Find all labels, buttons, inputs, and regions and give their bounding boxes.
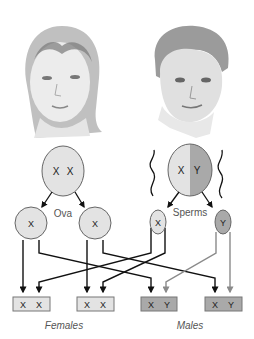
male-parent-chromosome-x: X: [178, 165, 185, 176]
meiosis-arrow: [42, 192, 52, 207]
ovum-2-chromosome: X: [92, 219, 98, 229]
males-label: Males: [177, 320, 204, 331]
meiosis-arrow: [202, 192, 212, 207]
offspring-3-chromosome-2: Y: [164, 300, 170, 310]
male-parent-chromosome-y: Y: [194, 165, 201, 176]
sperm-x-chromosome: X: [155, 218, 161, 228]
cross-line-spermy-box3: [166, 232, 216, 292]
ova-label: Ova: [54, 208, 73, 219]
sperm-y-chromosome: Y: [220, 218, 226, 228]
offspring-4-chromosome-2: Y: [228, 300, 234, 310]
meiosis-arrow: [168, 192, 179, 207]
offspring-2-chromosome-2: X: [100, 300, 106, 310]
female-parent-cell: [42, 146, 84, 196]
females-label: Females: [45, 320, 83, 331]
offspring-4: [205, 297, 242, 311]
sex-determination-diagram: X X X Y X X Ova X Y Sperms: [0, 0, 254, 339]
offspring-1-chromosome-2: X: [36, 300, 42, 310]
cross-line-ovum2-box4: [103, 240, 215, 292]
ovum-1-chromosome: X: [28, 219, 34, 229]
female-parent-chromosome-1: X: [53, 166, 60, 177]
sperms-label: Sperms: [173, 207, 207, 218]
meiosis-arrow: [75, 192, 84, 207]
offspring-2-chromosome-1: X: [84, 300, 90, 310]
offspring-3-chromosome-1: X: [148, 300, 154, 310]
offspring-2: [77, 297, 114, 311]
male-portrait: [155, 26, 229, 138]
offspring-1-chromosome-1: X: [20, 300, 26, 310]
offspring-1: [13, 297, 50, 311]
female-parent-chromosome-2: X: [67, 166, 74, 177]
cross-line-ovum1-box3: [39, 240, 151, 292]
female-portrait: [25, 26, 102, 138]
offspring-4-chromosome-1: X: [212, 300, 218, 310]
sperm-y-tail: [218, 150, 223, 198]
sperm-x-tail: [150, 150, 154, 196]
offspring-3: [141, 297, 177, 311]
male-parent-cell: [168, 144, 212, 196]
